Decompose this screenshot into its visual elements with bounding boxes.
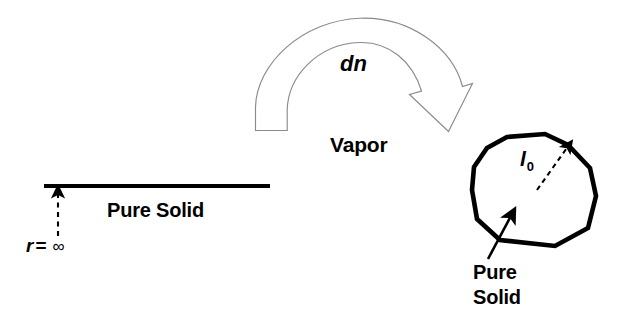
dn-label: dn xyxy=(340,53,367,75)
pure-solid-particle-label-line1: Pure xyxy=(473,262,517,282)
radius-infinity-label: r=∞ xyxy=(26,236,65,255)
length-symbol: l xyxy=(520,147,526,170)
figure-canvas: Vapor dn Pure Solid r=∞ l0 Pure Solid xyxy=(0,0,627,321)
l0-label: l0 xyxy=(520,148,534,173)
radius-equals-sign: = xyxy=(33,235,46,256)
length-subscript: 0 xyxy=(526,159,534,174)
vapor-label: Vapor xyxy=(330,134,387,155)
pure-solid-particle-label-line2: Solid xyxy=(473,287,521,307)
infinity-symbol: ∞ xyxy=(47,237,65,256)
pure-solid-flat-label: Pure Solid xyxy=(107,200,204,220)
